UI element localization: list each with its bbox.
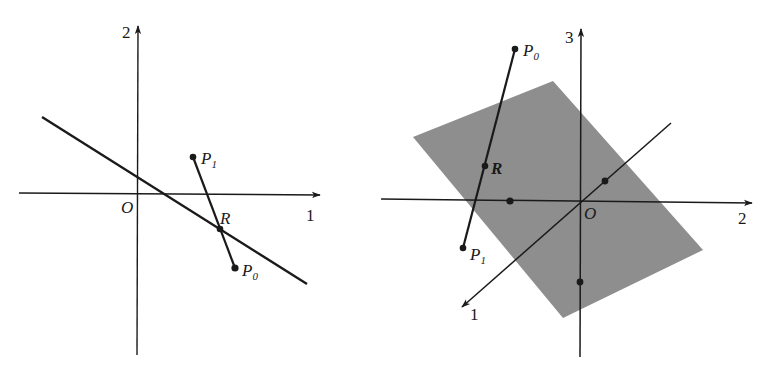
- left-line: [42, 117, 307, 284]
- left-horizontal-axis-label: 1: [306, 206, 315, 225]
- right-label-r: R: [490, 159, 502, 178]
- right-point-p1: [460, 245, 467, 252]
- right-axis-3: [580, 29, 581, 357]
- left-horizontal-axis: [19, 193, 320, 195]
- right-axis-2-label: 2: [738, 209, 747, 228]
- left-label-p0: P0: [241, 261, 258, 282]
- left-figure: 2 1 O P1 P0 R: [19, 23, 320, 355]
- right-origin-label: O: [584, 204, 596, 223]
- left-label-r: R: [219, 209, 231, 228]
- right-axis-1-label: 1: [470, 305, 479, 324]
- right-axis-3-label: 3: [565, 28, 574, 47]
- right-intercept-axis-2: [506, 197, 513, 204]
- left-vertical-axis-label: 2: [122, 23, 131, 42]
- left-point-p0: [231, 264, 238, 271]
- left-label-p1: P1: [200, 149, 217, 170]
- right-label-p0: P0: [522, 41, 539, 62]
- right-point-r: [482, 163, 489, 170]
- right-point-p0: [512, 46, 519, 53]
- right-label-p1: P1: [469, 245, 486, 266]
- left-vertical-axis: [137, 26, 138, 355]
- right-intercept-axis-3: [577, 279, 584, 286]
- diagram-canvas: 2 1 O P1 P0 R 3 2 1 O P0 P1 R: [0, 0, 768, 372]
- right-intercept-axis-1: [602, 178, 609, 185]
- left-origin-label: O: [121, 198, 133, 217]
- right-figure: 3 2 1 O P0 P1 R: [381, 28, 752, 357]
- left-point-p1: [190, 154, 197, 161]
